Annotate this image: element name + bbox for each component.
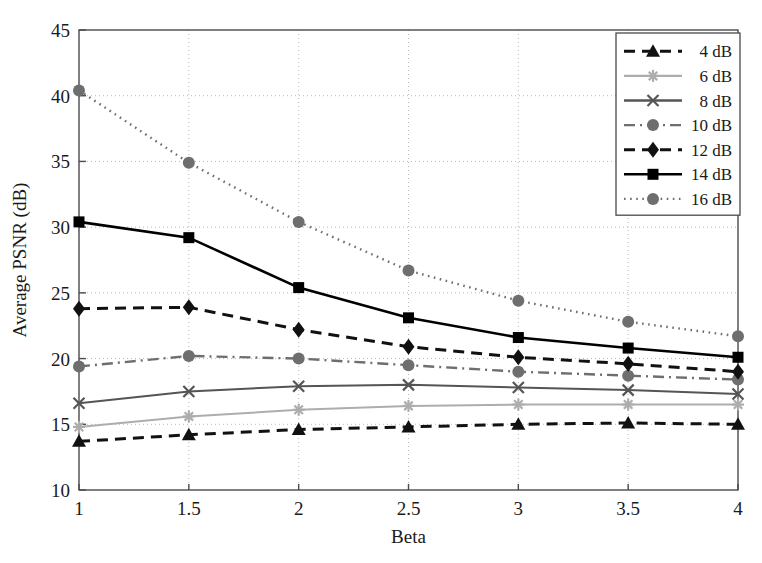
data-point-marker (183, 232, 194, 243)
legend-label: 8 dB (699, 92, 732, 111)
data-point-marker (732, 399, 744, 411)
legend-marker (647, 70, 659, 82)
data-point-marker (733, 352, 744, 363)
data-point-marker (512, 399, 524, 411)
data-point-marker (512, 366, 524, 378)
data-point-marker (293, 404, 305, 416)
x-tick-label: 3.5 (616, 498, 640, 519)
data-point-marker (403, 400, 415, 412)
data-point-marker (183, 350, 195, 362)
data-point-marker (623, 343, 634, 354)
data-point-marker (622, 316, 634, 328)
x-tick-label: 3 (514, 498, 524, 519)
legend-label: 14 dB (691, 165, 732, 184)
legend: 4 dB6 dB8 dB10 dB12 dB14 dB16 dB (616, 33, 740, 215)
series-10-db (73, 350, 744, 386)
x-tick-label: 2.5 (397, 498, 421, 519)
y-tick-label: 10 (51, 480, 70, 501)
data-point-marker (183, 299, 195, 315)
data-point-marker (293, 353, 305, 365)
data-point-marker (293, 322, 305, 338)
data-point-marker (74, 216, 85, 227)
y-tick-label: 15 (51, 414, 70, 435)
data-point-marker (183, 157, 195, 169)
legend-label: 4 dB (699, 42, 732, 61)
data-point-marker (293, 216, 305, 228)
figure: 11.522.533.541015202530354045BetaAverage… (0, 0, 762, 563)
legend-label: 16 dB (691, 190, 732, 209)
psnr-line-chart: 11.522.533.541015202530354045BetaAverage… (0, 0, 762, 563)
data-point-marker (403, 359, 415, 371)
y-tick-label: 45 (51, 20, 70, 41)
legend-marker (647, 119, 659, 131)
data-point-marker (73, 421, 85, 433)
y-tick-label: 25 (51, 283, 70, 304)
data-point-marker (293, 282, 304, 293)
x-tick-label: 1 (74, 498, 84, 519)
legend-label: 10 dB (691, 116, 732, 135)
data-point-marker (512, 349, 524, 365)
data-point-marker (512, 295, 524, 307)
x-tick-label: 2 (294, 498, 304, 519)
data-point-marker (73, 84, 85, 96)
legend-marker (648, 169, 659, 180)
y-tick-label: 35 (51, 151, 70, 172)
legend-marker (647, 193, 659, 205)
y-tick-label: 20 (51, 349, 70, 370)
data-point-marker (183, 410, 195, 422)
y-tick-label: 30 (51, 217, 70, 238)
legend-label: 6 dB (699, 67, 732, 86)
x-tick-label: 4 (733, 498, 743, 519)
data-point-marker (732, 330, 744, 342)
data-point-marker (403, 265, 415, 277)
data-point-marker (73, 360, 85, 372)
legend-label: 12 dB (691, 141, 732, 160)
data-point-marker (622, 399, 634, 411)
data-point-marker (403, 339, 415, 355)
x-axis-label: Beta (391, 526, 426, 547)
data-point-marker (403, 312, 414, 323)
x-tick-label: 1.5 (177, 498, 201, 519)
data-point-marker (513, 332, 524, 343)
y-axis-label: Average PSNR (dB) (9, 183, 31, 338)
data-point-marker (73, 301, 85, 317)
y-tick-label: 40 (51, 86, 70, 107)
